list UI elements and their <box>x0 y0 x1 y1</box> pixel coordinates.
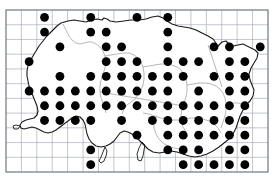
distribution-dot <box>71 101 80 110</box>
distribution-dot <box>40 28 49 37</box>
distribution-dot <box>86 160 95 169</box>
distribution-dot <box>148 72 157 81</box>
distribution-dot <box>210 101 219 110</box>
distribution-dot <box>210 72 219 81</box>
distribution-dot <box>86 101 95 110</box>
distribution-dot <box>194 116 203 125</box>
distribution-dot <box>25 57 34 66</box>
distribution-dot <box>117 87 126 96</box>
distribution-dot <box>25 87 34 96</box>
distribution-dot <box>240 146 249 155</box>
distribution-map-figure: distribution map <box>0 0 275 182</box>
distribution-dot <box>102 42 111 51</box>
distribution-dot <box>240 116 249 125</box>
distribution-dot <box>163 101 172 110</box>
distribution-dot <box>56 101 65 110</box>
distribution-dot <box>133 72 142 81</box>
distribution-dot <box>40 116 49 125</box>
distribution-dot <box>86 87 95 96</box>
distribution-dot <box>148 116 157 125</box>
distribution-dot <box>240 57 249 66</box>
distribution-dot <box>179 131 188 140</box>
distribution-dot <box>179 160 188 169</box>
distribution-dot <box>163 13 172 22</box>
distribution-dot <box>117 116 126 125</box>
distribution-dot <box>225 131 234 140</box>
distribution-dot <box>240 131 249 140</box>
distribution-dot <box>71 116 80 125</box>
distribution-dot <box>194 146 203 155</box>
distribution-dot <box>240 101 249 110</box>
distribution-dot <box>163 116 172 125</box>
distribution-dot <box>40 13 49 22</box>
distribution-dot <box>56 72 65 81</box>
distribution-dot <box>133 57 142 66</box>
distribution-dot <box>210 160 219 169</box>
distribution-dot <box>179 72 188 81</box>
distribution-dot <box>225 146 234 155</box>
distribution-dot <box>225 116 234 125</box>
map-canvas <box>0 0 275 182</box>
distribution-dot <box>225 42 234 51</box>
distribution-dot <box>56 87 65 96</box>
distribution-dot <box>117 57 126 66</box>
distribution-dot <box>86 72 95 81</box>
distribution-dot <box>179 101 188 110</box>
distribution-dot <box>240 87 249 96</box>
distribution-dot <box>40 101 49 110</box>
distribution-dot <box>194 87 203 96</box>
distribution-dot <box>225 87 234 96</box>
distribution-dot <box>102 101 111 110</box>
distribution-dot <box>240 160 249 169</box>
distribution-dot <box>148 87 157 96</box>
distribution-dot <box>194 160 203 169</box>
distribution-dot <box>133 131 142 140</box>
distribution-dot <box>71 87 80 96</box>
distribution-dot <box>225 57 234 66</box>
distribution-dot <box>240 72 249 81</box>
distribution-dot <box>117 42 126 51</box>
distribution-dot <box>179 146 188 155</box>
distribution-dot <box>210 131 219 140</box>
distribution-dot <box>40 87 49 96</box>
distribution-dot <box>102 28 111 37</box>
distribution-dot <box>179 57 188 66</box>
distribution-dot <box>163 146 172 155</box>
distribution-dot <box>210 116 219 125</box>
distribution-dot <box>86 28 95 37</box>
distribution-dot <box>56 42 65 51</box>
distribution-dot <box>163 72 172 81</box>
distribution-dot <box>210 42 219 51</box>
distribution-dot <box>102 72 111 81</box>
distribution-dot <box>117 101 126 110</box>
distribution-dot <box>256 42 265 51</box>
distribution-dot <box>194 131 203 140</box>
distribution-dot <box>225 160 234 169</box>
distribution-dot <box>102 57 111 66</box>
distribution-dot <box>133 13 142 22</box>
distribution-dot <box>225 72 234 81</box>
distribution-dot <box>86 116 95 125</box>
distribution-dot <box>225 101 234 110</box>
distribution-dot <box>163 42 172 51</box>
distribution-dot <box>163 28 172 37</box>
distribution-dot <box>86 146 95 155</box>
distribution-dot <box>117 72 126 81</box>
distribution-dot <box>163 131 172 140</box>
distribution-dot <box>179 116 188 125</box>
distribution-dot <box>133 87 142 96</box>
distribution-dot <box>163 57 172 66</box>
distribution-dot <box>163 87 172 96</box>
distribution-dot <box>102 87 111 96</box>
distribution-dot <box>194 101 203 110</box>
distribution-dot <box>133 101 142 110</box>
distribution-dot <box>148 101 157 110</box>
distribution-dot <box>194 57 203 66</box>
distribution-dot <box>86 13 95 22</box>
distribution-dot <box>56 116 65 125</box>
